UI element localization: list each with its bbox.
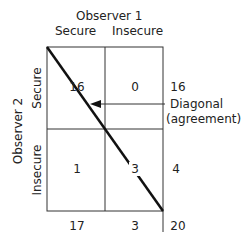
col-total-insecure: 3	[120, 219, 150, 233]
row-total-secure: 16	[168, 80, 188, 94]
observer2-label: Observer 2	[11, 91, 25, 171]
grand-total: 20	[168, 219, 188, 233]
row-header-secure: Secure	[30, 58, 44, 118]
observer1-label: Observer 1	[76, 9, 143, 23]
cell-insecure-insecure: 3	[129, 162, 141, 176]
row-header-insecure: Insecure	[30, 140, 44, 200]
annotation-agreement: (agreement)	[166, 112, 241, 126]
cell-secure-insecure: 0	[120, 80, 150, 94]
col-total-secure: 17	[62, 219, 92, 233]
column-header-insecure: Insecure	[112, 24, 163, 38]
row-total-insecure: 4	[166, 162, 186, 176]
arrow-left-icon	[90, 100, 101, 108]
annotation-diagonal: Diagonal	[170, 97, 223, 111]
column-header-secure: Secure	[55, 24, 96, 38]
cell-insecure-secure: 1	[62, 162, 92, 176]
cell-secure-secure: 16	[62, 80, 92, 94]
